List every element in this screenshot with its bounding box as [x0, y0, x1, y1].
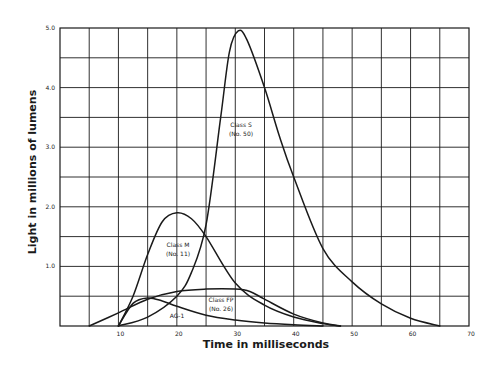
chart-grid — [60, 28, 469, 326]
y-axis-label: Light in millions of lumens — [26, 89, 39, 254]
y-tick-label: 4.0 — [45, 84, 55, 91]
y-tick-label: 3.0 — [45, 143, 55, 150]
y-tick-label: 1.0 — [45, 262, 55, 269]
y-axis-ticks: 1.02.03.04.05.0 — [45, 24, 55, 269]
x-axis-label: Time in milliseconds — [203, 338, 330, 351]
curve-label: (No. 11) — [166, 250, 190, 257]
curve-label: AG-1 — [170, 312, 185, 319]
x-tick-label: 60 — [409, 330, 417, 337]
x-tick-label: 40 — [292, 330, 300, 337]
y-tick-label: 2.0 — [45, 203, 55, 210]
x-tick-label: 30 — [233, 330, 241, 337]
x-tick-label: 20 — [175, 330, 183, 337]
curve-label: (No. 26) — [209, 305, 233, 312]
curve-label: (No. 50) — [229, 130, 253, 137]
curve-label: Class M — [167, 241, 190, 248]
y-tick-label: 5.0 — [45, 24, 55, 31]
x-tick-label: 50 — [350, 330, 358, 337]
series-curve-class-s-no-50 — [118, 30, 439, 326]
chart: 1.02.03.04.05.0 10203040506070 Class S(N… — [0, 0, 497, 365]
x-tick-label: 10 — [117, 330, 125, 337]
x-axis-ticks: 10203040506070 — [117, 330, 475, 337]
curve-label: Class S — [230, 121, 252, 128]
curve-label: Class FP — [209, 296, 234, 303]
x-tick-label: 70 — [467, 330, 475, 337]
